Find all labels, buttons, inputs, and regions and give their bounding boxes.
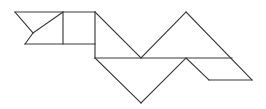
segment-group [15, 12, 252, 103]
diagonal-big-v-left [95, 12, 141, 58]
diagonal-parallelogram-left [186, 58, 209, 80]
diagonal-left-base-down [25, 33, 33, 44]
diagonal-lower-v-right [141, 58, 186, 103]
tangram-drawing [0, 0, 266, 109]
diagonal-peak-right-down [186, 12, 252, 80]
diagonal-big-v-right-up [141, 12, 186, 58]
figure-canvas [0, 0, 266, 109]
diagonal-upper-left-down [15, 12, 33, 33]
diagonal-lower-v-left [95, 58, 141, 103]
diagonal-inner-left-up [33, 12, 63, 33]
